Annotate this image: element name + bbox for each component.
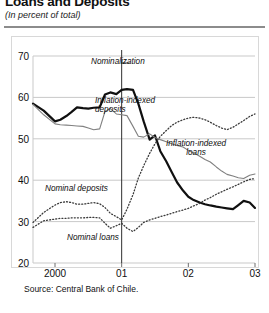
chart-canvas bbox=[33, 56, 255, 263]
x-axis-tick-label: 01 bbox=[116, 268, 127, 279]
figure-loans-and-deposits: Loans and Deposits (In percent of total)… bbox=[0, 0, 269, 313]
series-line bbox=[33, 114, 255, 222]
source-note: Source: Central Bank of Chile. bbox=[24, 284, 138, 294]
chart-subtitle: (In percent of total) bbox=[5, 10, 81, 20]
x-axis-tick-label: 03 bbox=[249, 268, 260, 279]
x-axis-tick-label: 2000 bbox=[44, 268, 66, 279]
x-axis-tick-label: 02 bbox=[183, 268, 194, 279]
y-axis-tick-label: 40 bbox=[18, 175, 29, 186]
y-axis-tick-label: 70 bbox=[18, 51, 29, 62]
nominalization-marker-line bbox=[122, 50, 130, 263]
y-axis-tick-label: 50 bbox=[18, 133, 29, 144]
annotation-nominalization: Nominalization bbox=[91, 57, 145, 66]
y-axis-tick-label: 60 bbox=[18, 92, 29, 103]
page-title: Loans and Deposits bbox=[5, 0, 130, 9]
header-divider bbox=[4, 26, 265, 28]
plot-area: 203040506070 2000010203 Nominalization I… bbox=[33, 56, 255, 263]
y-axis-tick-label: 30 bbox=[18, 216, 29, 227]
annotation-nominal-loans: Nominal loans bbox=[67, 233, 119, 242]
annotation-inflation-indexed-deposits: Inflation-indexed deposits bbox=[95, 96, 155, 114]
y-axis-tick-label: 20 bbox=[18, 258, 29, 269]
gridlines bbox=[33, 56, 255, 263]
annotation-inflation-indexed-loans: Inflation-indexed loans bbox=[166, 139, 226, 157]
annotation-nominal-deposits: Nominal deposits bbox=[45, 184, 108, 193]
